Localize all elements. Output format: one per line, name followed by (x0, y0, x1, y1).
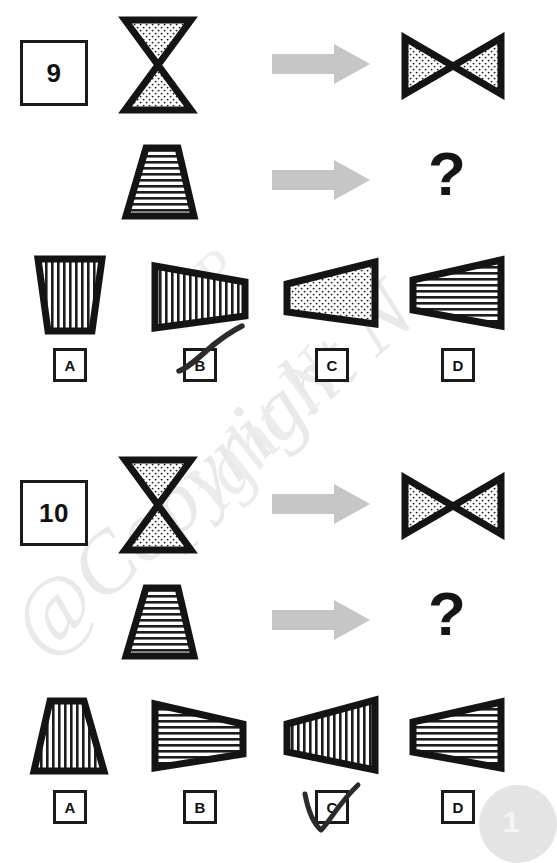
answer-label-wrap-d[interactable]: D (398, 348, 518, 382)
transform-arrow (272, 44, 370, 84)
page-number: 1 (503, 805, 520, 839)
answer-label-c[interactable]: C (315, 790, 349, 824)
answer-shape-b[interactable] (140, 690, 260, 782)
question-source-shape-10 (120, 583, 200, 665)
question-block-9: 9 (0, 0, 541, 420)
example-source-shape-9 (118, 14, 198, 120)
answer-options-9: A B (0, 248, 541, 418)
answer-options-10: A B (0, 690, 541, 850)
question-block-10: 10 (0, 440, 541, 849)
answer-label-c[interactable]: C (315, 348, 349, 382)
example-source-shape-10 (118, 454, 198, 560)
answer-option-c[interactable]: C (272, 248, 392, 382)
transform-arrow (272, 600, 370, 640)
example-result-shape-9 (400, 32, 506, 104)
question-mark-placeholder: ? (428, 143, 466, 205)
transform-arrow (272, 160, 370, 200)
answer-label-d[interactable]: D (441, 790, 475, 824)
question-source-shape-9 (120, 143, 200, 225)
answer-shape-d[interactable] (398, 690, 518, 782)
answer-shape-d[interactable] (398, 248, 518, 340)
transform-arrow (272, 484, 370, 524)
question-mark-placeholder: ? (428, 583, 466, 645)
answer-shape-a[interactable] (10, 248, 130, 340)
answer-label-b[interactable]: B (183, 790, 217, 824)
page-corner-badge: 1 (479, 785, 557, 863)
answer-label-a[interactable]: A (53, 348, 87, 382)
question-number-box: 9 (20, 40, 88, 106)
answer-option-a[interactable]: A (10, 248, 130, 382)
question-row-9: ? (0, 125, 541, 235)
answer-option-d[interactable]: D (398, 248, 518, 382)
example-row-10: 10 (0, 440, 541, 565)
question-number-box: 10 (20, 480, 88, 546)
answer-label-wrap-c[interactable]: C (272, 348, 392, 382)
answer-label-wrap-a[interactable]: A (10, 348, 130, 382)
answer-label-wrap-c[interactable]: C (272, 790, 392, 824)
answer-shape-c[interactable] (272, 248, 392, 340)
answer-label-wrap-b[interactable]: B (140, 348, 260, 382)
answer-shape-b[interactable] (140, 248, 260, 340)
answer-label-wrap-a[interactable]: A (10, 790, 130, 824)
answer-label-a[interactable]: A (53, 790, 87, 824)
answer-label-d[interactable]: D (441, 348, 475, 382)
answer-shape-a[interactable] (10, 690, 130, 782)
example-row-9: 9 (0, 0, 541, 125)
answer-option-a[interactable]: A (10, 690, 130, 824)
answer-option-c[interactable]: C (272, 690, 392, 824)
answer-option-b[interactable]: B (140, 248, 260, 382)
question-row-10: ? (0, 565, 541, 675)
answer-label-wrap-b[interactable]: B (140, 790, 260, 824)
example-result-shape-10 (400, 472, 506, 544)
answer-label-b[interactable]: B (183, 348, 217, 382)
answer-shape-c[interactable] (272, 690, 392, 782)
answer-option-b[interactable]: B (140, 690, 260, 824)
